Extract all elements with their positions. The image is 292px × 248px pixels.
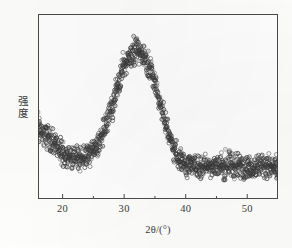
xrd-chart-figure: 20304050 2θ/(°) 强度 — [0, 0, 292, 248]
x-axis-tick-label: 30 — [119, 203, 130, 214]
xrd-scatter-plot — [38, 14, 278, 199]
y-axis-title-char: 度 — [16, 108, 29, 120]
x-axis-tick-label: 40 — [180, 203, 191, 214]
y-axis-title-char: 强 — [16, 96, 29, 108]
y-axis-title: 强度 — [16, 96, 29, 119]
x-axis-tick-label: 50 — [242, 203, 253, 214]
x-axis-tick-label: 20 — [57, 203, 68, 214]
x-axis-title: 2θ/(°) — [145, 224, 171, 235]
